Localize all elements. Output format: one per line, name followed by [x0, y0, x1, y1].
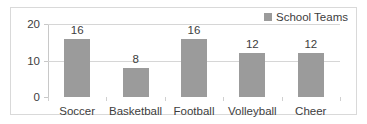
- bar: [181, 39, 207, 97]
- x-axis-tick: [106, 97, 107, 101]
- bar-value-label: 12: [304, 38, 317, 50]
- x-axis-tick: [340, 97, 341, 101]
- bar-group: 12Volleyball: [223, 24, 281, 97]
- bar: [64, 39, 90, 97]
- x-axis-category-label: Cheer: [295, 105, 326, 117]
- chart-legend: School Teams: [264, 11, 348, 23]
- x-axis-category-label: Football: [174, 105, 215, 117]
- bar-group: 8Basketball: [106, 24, 164, 97]
- bar: [298, 53, 324, 97]
- x-axis-category-label: Soccer: [59, 105, 95, 117]
- y-axis-tick-label: 0: [34, 91, 40, 103]
- x-axis-tick: [165, 97, 166, 101]
- bar-value-label: 12: [246, 38, 259, 50]
- x-axis-category-label: Volleyball: [228, 105, 277, 117]
- y-axis-tick-label: 20: [27, 18, 40, 30]
- bar-value-label: 16: [71, 24, 84, 36]
- x-axis-tick: [282, 97, 283, 101]
- bar-chart: School Teams 01020 16Soccer8Basketball16…: [10, 7, 357, 115]
- x-axis-tick: [48, 97, 49, 101]
- x-axis-category-label: Basketball: [109, 105, 162, 117]
- bar-value-label: 16: [188, 24, 201, 36]
- bar-group: 16Football: [165, 24, 223, 97]
- bar-group: 16Soccer: [48, 24, 106, 97]
- legend-label: School Teams: [276, 11, 348, 23]
- plot-area: 01020 16Soccer8Basketball16Football12Vol…: [48, 24, 340, 97]
- legend-swatch-icon: [264, 13, 272, 21]
- bar-value-label: 8: [132, 53, 138, 65]
- bar: [239, 53, 265, 97]
- bar-group: 12Cheer: [282, 24, 340, 97]
- x-axis-tick: [223, 97, 224, 101]
- bar: [123, 68, 149, 97]
- y-axis-tick-label: 10: [27, 55, 40, 67]
